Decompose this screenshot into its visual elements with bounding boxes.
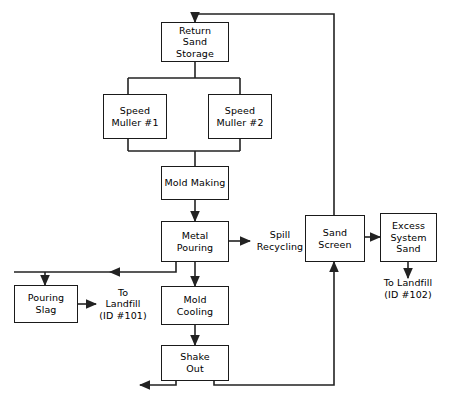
node-speed-muller-2[interactable]: Speed Muller #2 — [208, 94, 272, 139]
node-excess-system-sand[interactable]: Excess System Sand — [380, 213, 437, 262]
node-mold-cooling[interactable]: Mold Cooling — [161, 286, 229, 325]
connector-shake-out-left-exit — [140, 381, 176, 385]
node-pouring-slag[interactable]: Pouring Slag — [14, 285, 78, 323]
node-shake-out[interactable]: Shake Out — [161, 345, 229, 381]
node-speed-muller-1[interactable]: Speed Muller #1 — [103, 94, 167, 139]
flowchart-canvas: Return Sand Storage Speed Muller #1 Spee… — [0, 0, 449, 404]
node-return-sand-storage[interactable]: Return Sand Storage — [161, 22, 229, 62]
node-sand-screen[interactable]: Sand Screen — [305, 215, 365, 262]
label-to-landfill-101: To Landfill (ID #101) — [90, 286, 156, 322]
connector-metal-pouring-to-slag-line — [110, 262, 176, 272]
node-mold-making[interactable]: Mold Making — [161, 166, 229, 200]
label-spill-recycling: Spill Recycling — [248, 229, 312, 253]
label-to-landfill-102: To Landfill (ID #102) — [371, 277, 445, 301]
connector-shake-out-to-sand-screen — [214, 262, 334, 385]
node-metal-pouring[interactable]: Metal Pouring — [161, 221, 229, 262]
